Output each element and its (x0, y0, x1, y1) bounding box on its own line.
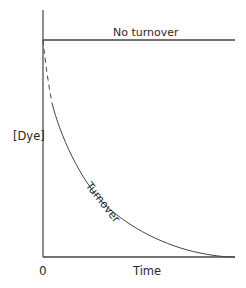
turnover-curve-solid (52, 103, 235, 257)
x-axis-label: Time (133, 266, 161, 278)
x-origin-tick-label: 0 (39, 265, 47, 277)
no-turnover-label: No turnover (113, 27, 179, 38)
y-axis-label: [Dye] (13, 131, 45, 143)
turnover-curve-dashed (43, 40, 52, 103)
chart-canvas (0, 0, 246, 288)
